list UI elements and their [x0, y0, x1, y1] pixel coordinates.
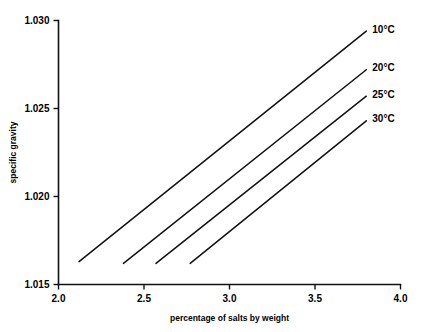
y-axis-title: specific gravity — [8, 121, 18, 183]
series-line-25c — [156, 96, 366, 263]
x-tick-label: 3.0 — [223, 293, 237, 304]
x-tick-label: 4.0 — [394, 293, 408, 304]
series-label-25c: 25°C — [372, 89, 394, 100]
x-axis-title: percentage of salts by weight — [170, 313, 289, 323]
chart-series-lines — [79, 31, 366, 263]
series-label-30c: 30°C — [372, 113, 394, 124]
y-tick-label: 1.030 — [24, 15, 49, 26]
series-label-10c: 10°C — [372, 24, 394, 35]
series-line-10c — [79, 31, 366, 262]
chart-container: 1.0151.0201.0251.030 2.02.53.03.54.0 10°… — [0, 0, 423, 332]
chart-series-labels: 10°C20°C25°C30°C — [372, 24, 394, 125]
specific-gravity-line-chart: 1.0151.0201.0251.030 2.02.53.03.54.0 10°… — [0, 0, 423, 332]
x-axis-tick-labels: 2.02.53.03.54.0 — [52, 293, 408, 304]
series-line-30c — [190, 121, 366, 264]
x-tick-label: 3.5 — [308, 293, 322, 304]
chart-axes — [59, 21, 401, 285]
x-tick-label: 2.5 — [137, 293, 151, 304]
y-tick-label: 1.025 — [24, 103, 49, 114]
y-axis-tick-labels: 1.0151.0201.0251.030 — [24, 15, 49, 290]
series-label-20c: 20°C — [372, 62, 394, 73]
chart-tick-marks — [54, 21, 401, 290]
y-tick-label: 1.020 — [24, 191, 49, 202]
y-tick-label: 1.015 — [24, 279, 49, 290]
series-line-20c — [123, 70, 366, 264]
x-tick-label: 2.0 — [52, 293, 66, 304]
